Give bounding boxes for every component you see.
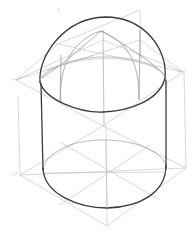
cylinder-left-side — [41, 84, 43, 170]
cutoff-caption — [0, 236, 192, 241]
sketch-drawing — [0, 0, 192, 241]
lower-construction-lines — [12, 126, 186, 226]
dome-contour — [40, 17, 165, 82]
bottom-ellipse-back — [43, 140, 166, 168]
upper-construction-lines — [12, 8, 186, 126]
vertical-construction-lines — [18, 30, 186, 226]
top-ellipse-front — [40, 78, 165, 112]
